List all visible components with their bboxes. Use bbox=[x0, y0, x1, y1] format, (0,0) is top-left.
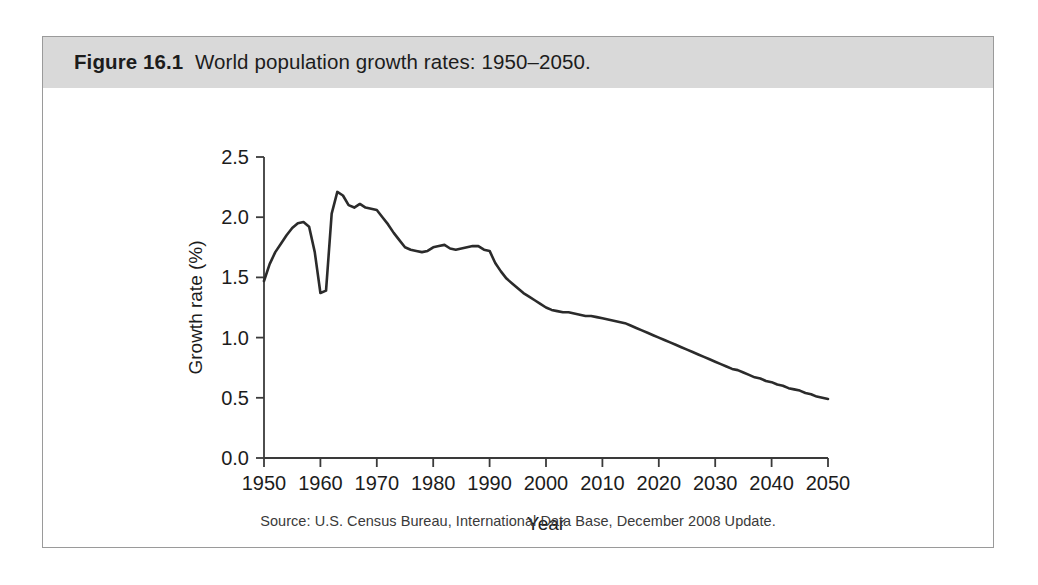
x-tick-label: 2050 bbox=[806, 472, 851, 494]
source-note: Source: U.S. Census Bureau, Internationa… bbox=[43, 513, 993, 529]
y-tick-label: 0.5 bbox=[221, 387, 249, 409]
figure-caption-band: Figure 16.1 World population growth rate… bbox=[43, 37, 993, 88]
x-tick-label: 2010 bbox=[580, 472, 625, 494]
figure-title: World population growth rates: 1950–2050… bbox=[195, 50, 591, 73]
y-tick-label: 2.5 bbox=[221, 146, 249, 168]
figure-number: Figure 16.1 bbox=[74, 50, 183, 73]
x-tick-label: 1970 bbox=[355, 472, 400, 494]
y-tick-label: 1.0 bbox=[221, 327, 249, 349]
x-axis-ticks: 1950196019701980199020002010202020302040… bbox=[242, 458, 851, 494]
series-line bbox=[264, 192, 828, 399]
y-tick-label: 0.0 bbox=[221, 447, 249, 469]
chart-series-group bbox=[264, 192, 828, 399]
y-axis-title: Growth rate (%) bbox=[185, 240, 206, 374]
x-tick-label: 2030 bbox=[693, 472, 738, 494]
figure-frame: Figure 16.1 World population growth rate… bbox=[42, 36, 994, 548]
x-tick-label: 2040 bbox=[749, 472, 794, 494]
x-tick-label: 1980 bbox=[411, 472, 456, 494]
x-tick-label: 1950 bbox=[242, 472, 287, 494]
x-tick-label: 2020 bbox=[637, 472, 682, 494]
y-tick-label: 1.5 bbox=[221, 266, 249, 288]
y-axis-ticks: 0.00.51.01.52.02.5 bbox=[221, 146, 264, 469]
x-tick-label: 1990 bbox=[467, 472, 512, 494]
x-tick-label: 2000 bbox=[524, 472, 569, 494]
figure-caption: Figure 16.1 World population growth rate… bbox=[74, 50, 591, 74]
growth-rate-line-chart: 1950196019701980199020002010202020302040… bbox=[43, 88, 993, 547]
y-tick-label: 2.0 bbox=[221, 206, 249, 228]
figure-page: Figure 16.1 World population growth rate… bbox=[0, 0, 1038, 585]
plot-area: 1950196019701980199020002010202020302040… bbox=[43, 88, 993, 547]
x-tick-label: 1960 bbox=[298, 472, 343, 494]
